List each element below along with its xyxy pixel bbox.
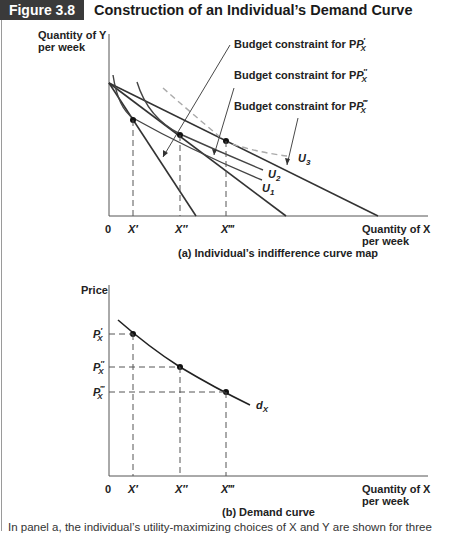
panel-b-demand-curve: Price P′X P″X P‴X dX 0 X′ X″ X‴ Quantity… [81, 284, 431, 518]
panel-a-y-label-2: per week [38, 41, 86, 53]
figure-body-text: In panel a, the individual’s utility-max… [8, 521, 432, 533]
leader-budget-p1 [163, 45, 230, 157]
panel-a-tick-x3: X‴ [220, 223, 235, 235]
panel-a-tick-x2: X″ [174, 223, 188, 235]
panel-b-x-label-2: per week [362, 495, 410, 507]
label-u1: U1 [262, 182, 275, 197]
panel-b-y-label: Price [81, 284, 108, 296]
panel-a-y-label-1: Quantity of Y [38, 29, 107, 41]
leader-budget-p3 [287, 118, 298, 165]
panel-b-tick-x1: X′ [127, 483, 139, 495]
indifference-curve-u3 [163, 88, 287, 156]
budget-label-p3: Budget constraint for PP‴X [234, 98, 369, 115]
price-tick-3: P‴X [93, 384, 105, 401]
arrowhead-icon [212, 149, 217, 155]
budget-line-p1 [109, 83, 196, 216]
panel-b-tick-x3: X‴ [220, 483, 235, 495]
leader-budget-p2 [214, 88, 234, 155]
budget-label-p1: Budget constraint for PP′X [234, 36, 367, 53]
arrowhead-icon [285, 158, 290, 165]
arrowhead-icon [163, 150, 168, 157]
panel-a-x-label-1: Quantity of X [362, 223, 431, 235]
panel-a-x-label-2: per week [362, 235, 410, 247]
budget-label-p2: Budget constraint for PP″X [234, 67, 368, 84]
price-tick-2: P″X [93, 359, 105, 376]
indifference-curve-u1 [113, 75, 262, 180]
panel-b-origin: 0 [105, 483, 111, 495]
label-u3: U3 [298, 152, 311, 167]
panel-b-tick-x2: X″ [174, 483, 188, 495]
label-u2: U2 [268, 168, 281, 183]
panel-a-caption: (a) Individual’s indifference curve map [178, 247, 378, 259]
panel-b-caption: (b) Demand curve [222, 506, 315, 518]
panel-a-indifference-map: Quantity of Y per week Budget constraint… [38, 29, 431, 259]
panel-a-tick-x1: X′ [127, 223, 139, 235]
price-tick-1: P′X [93, 326, 103, 343]
panel-a-origin: 0 [105, 223, 111, 235]
panel-b-x-label-1: Quantity of X [362, 483, 431, 495]
demand-curve-label: dX [256, 399, 269, 414]
